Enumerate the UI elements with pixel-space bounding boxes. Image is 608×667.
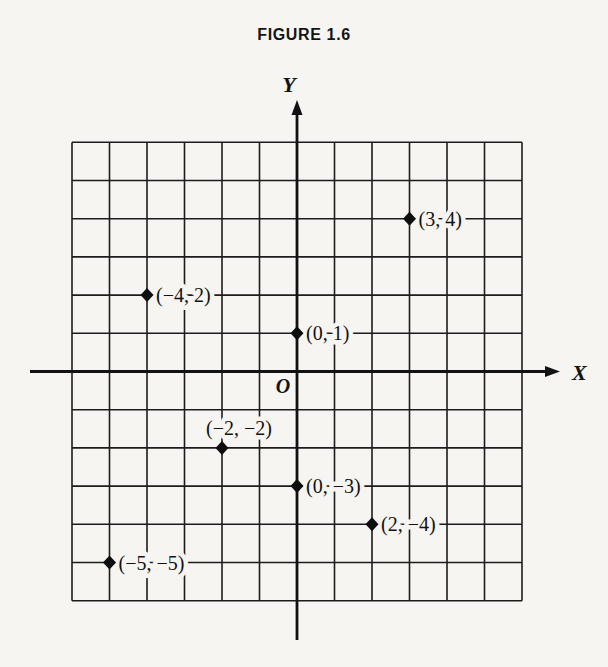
scanned-figure-page: FIGURE 1.6 YXO(3, 4)(−4, 2)(0, 1)(−2, −2… (0, 0, 608, 667)
y-axis-arrow-icon (292, 100, 303, 115)
data-point-label: (−2, −2) (206, 417, 272, 440)
origin-label: O (276, 375, 290, 397)
data-point-marker (216, 441, 229, 455)
x-axis-arrow-icon (545, 366, 560, 377)
data-point-label: (2, −4) (381, 513, 436, 536)
data-point-label: (−5, −5) (119, 552, 185, 575)
data-point-label: (−4, 2) (156, 284, 211, 307)
data-point-label: (0, 1) (306, 322, 349, 345)
y-axis-label: Y (282, 72, 298, 97)
data-point-marker (366, 517, 379, 531)
data-point-marker (141, 288, 154, 302)
data-point-marker (103, 556, 116, 570)
data-point-label: (0, −3) (306, 475, 361, 498)
coordinate-plane: YXO(3, 4)(−4, 2)(0, 1)(−2, −2)(0, −3)(2,… (0, 0, 608, 667)
data-point-marker (291, 326, 304, 340)
data-point-marker (291, 479, 304, 493)
data-point-label: (3, 4) (419, 208, 462, 231)
data-point-marker (403, 212, 416, 226)
x-axis-label: X (571, 360, 588, 385)
